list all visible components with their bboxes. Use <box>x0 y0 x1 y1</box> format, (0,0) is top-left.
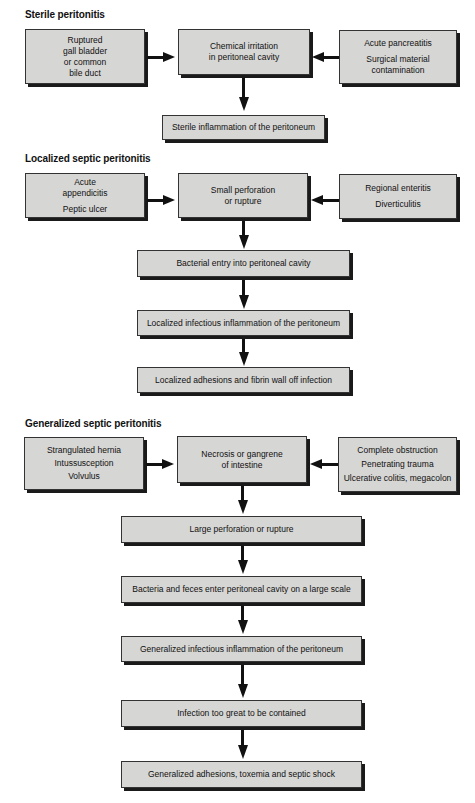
arrow-down-shaft <box>242 78 245 98</box>
central-text: of intestine <box>221 460 262 471</box>
sterile-right-causes-box: Acute pancreatitis Surgical material con… <box>339 30 457 84</box>
arrow-left-icon <box>310 459 338 469</box>
localized-chain-step-1: Bacterial entry into peritoneal cavity <box>137 250 350 277</box>
arrow-down-icon <box>239 235 249 249</box>
cause-text: contamination <box>372 65 425 76</box>
cause-text: Regional enteritis <box>365 183 431 194</box>
localized-left-causes-box: Acute appendicitis Peptic ulcer <box>25 173 145 218</box>
central-text: or rupture <box>225 196 262 207</box>
section-title-sterile: Sterile peritonitis <box>25 9 105 20</box>
chain-text: Large perforation or rupture <box>190 524 294 535</box>
generalized-chain-step-3: Generalized infectious inflammation of t… <box>121 636 362 662</box>
generalized-right-causes-box: Complete obstruction Penetrating trauma … <box>338 437 457 492</box>
chain-text: Generalized adhesions, toxemia and septi… <box>148 769 335 780</box>
localized-chain-step-2: Localized infectious inflammation of the… <box>137 310 350 336</box>
chain-text: Bacterial entry into peritoneal cavity <box>176 258 310 269</box>
cause-text: Peptic ulcer <box>63 204 107 215</box>
sterile-left-causes-box: Ruptured gall bladder or common bile duc… <box>25 29 145 84</box>
cause-text: Complete obstruction <box>357 445 437 456</box>
arrow-right-icon <box>146 459 174 469</box>
generalized-chain-step-4: Infection too great to be contained <box>121 700 362 727</box>
central-text: Small perforation <box>211 185 275 196</box>
arrow-down-icon <box>238 684 248 698</box>
localized-right-causes-box: Regional enteritis Diverticulitis <box>339 174 457 219</box>
cause-text: or common <box>64 57 107 68</box>
localized-chain-step-3: Localized adhesions and fibrin wall off … <box>137 367 350 393</box>
cause-text: Volvulus <box>68 471 100 482</box>
localized-central-box: Small perforation or rupture <box>178 173 308 218</box>
section-title-localized: Localized septic peritonitis <box>25 153 151 164</box>
sterile-outcome-box: Sterile inflammation of the peritoneum <box>162 115 325 140</box>
arrow-left-icon <box>312 52 339 62</box>
arrow-down-shaft <box>241 665 244 686</box>
arrow-down-icon <box>238 500 248 514</box>
arrow-down-icon <box>239 295 249 309</box>
central-text: in peritoneal cavity <box>209 52 279 63</box>
sterile-central-box: Chemical irritation in peritoneal cavity <box>178 29 310 75</box>
generalized-chain-step-5: Generalized adhesions, toxemia and septi… <box>121 761 362 788</box>
chain-text: Localized infectious inflammation of the… <box>147 318 340 329</box>
arrow-down-shaft <box>242 280 245 296</box>
cause-text: gall bladder <box>63 46 107 57</box>
outcome-text: Sterile inflammation of the peritoneum <box>172 122 315 133</box>
chain-text: Generalized infectious inflammation of t… <box>140 644 343 655</box>
arrow-right-icon <box>147 52 175 62</box>
cause-text: bile duct <box>69 68 101 79</box>
generalized-left-causes-box: Strangulated hernia Intussusception Volv… <box>24 437 144 490</box>
chain-text: Bacteria and feces enter peritoneal cavi… <box>132 584 350 595</box>
generalized-chain-step-1: Large perforation or rupture <box>121 516 362 543</box>
arrow-right-icon <box>147 195 175 205</box>
generalized-central-box: Necrosis or gangrene of intestine <box>177 436 307 483</box>
arrow-left-icon <box>311 195 339 205</box>
cause-text: Ruptured <box>68 35 103 46</box>
cause-text: Diverticulitis <box>375 199 420 210</box>
cause-text: Acute pancreatitis <box>364 38 432 49</box>
central-text: Chemical irritation <box>210 41 278 52</box>
cause-text: Ulcerative colitis, megacolon <box>344 473 452 484</box>
section-title-generalized: Generalized septic peritonitis <box>25 418 161 429</box>
cause-text: Penetrating trauma <box>361 459 433 470</box>
central-text: Necrosis or gangrene <box>201 449 282 460</box>
arrow-down-icon <box>239 97 249 111</box>
cause-text: Acute <box>74 177 96 188</box>
arrow-down-icon <box>238 745 248 759</box>
chain-text: Infection too great to be contained <box>177 708 306 719</box>
generalized-chain-step-2: Bacteria and feces enter peritoneal cavi… <box>121 576 362 603</box>
cause-text: Strangulated hernia <box>47 445 121 456</box>
chain-text: Localized adhesions and fibrin wall off … <box>155 375 332 386</box>
arrow-down-shaft <box>241 730 244 746</box>
arrow-down-icon <box>238 620 248 634</box>
arrow-down-shaft <box>242 339 245 353</box>
cause-text: Surgical material <box>366 54 429 65</box>
arrow-down-icon <box>239 352 249 366</box>
cause-text: Intussusception <box>54 458 113 469</box>
arrow-down-icon <box>238 560 248 574</box>
cause-text: appendicitis <box>63 188 108 199</box>
